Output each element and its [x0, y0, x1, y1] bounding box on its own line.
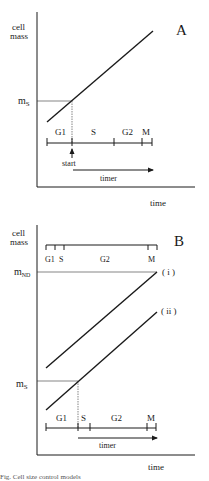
top-phase-g2: G2: [100, 255, 110, 264]
figure-caption-fragment: Fig. Cell size control models: [0, 473, 209, 481]
curve-i-label: ( i ): [162, 267, 175, 277]
phase-g2: G2: [122, 127, 133, 137]
y-axis-label-mass: mass: [10, 31, 28, 41]
mass-growth-line: [47, 31, 153, 122]
panel-label-b: B: [174, 233, 184, 249]
bottom-phase-g2: G2: [111, 413, 122, 423]
timer-label: timer: [99, 441, 116, 450]
curve-ii: [46, 312, 157, 410]
bottom-phase-s: S: [81, 413, 86, 423]
ms-label: mS: [16, 378, 28, 391]
cell-cycle-diagram: cell mass A mS G1 S G2 M start timer tim…: [0, 0, 209, 481]
phase-s: S: [91, 127, 96, 137]
top-phase-s: S: [59, 255, 63, 264]
top-phase-g1: G1: [45, 255, 55, 264]
curve-i: [46, 272, 157, 368]
panel-a: cell mass A mS G1 S G2 M start timer tim…: [10, 12, 195, 208]
panel-b: cell mass B G1 S G2 M mND ( i ) ( ii ) m…: [10, 225, 195, 472]
top-phase-m: M: [148, 255, 155, 264]
ms-label: mS: [18, 95, 30, 108]
phase-g1: G1: [55, 127, 66, 137]
top-cell-cycle-bar: [46, 245, 157, 250]
x-axis-label-time: time: [150, 198, 166, 208]
y-axis-label-mass: mass: [10, 237, 28, 247]
mnd-label: mND: [14, 266, 31, 278]
phase-m: M: [142, 127, 150, 137]
timer-label: timer: [100, 174, 117, 183]
cell-cycle-bar: [47, 138, 152, 146]
start-label: start: [62, 159, 77, 168]
bottom-cell-cycle-bar: [46, 423, 156, 431]
panel-label-a: A: [176, 22, 187, 38]
x-axis-label-time: time: [148, 462, 164, 472]
curve-ii-label: ( ii ): [161, 306, 177, 316]
bottom-phase-m: M: [147, 413, 155, 423]
bottom-phase-g1: G1: [56, 413, 67, 423]
